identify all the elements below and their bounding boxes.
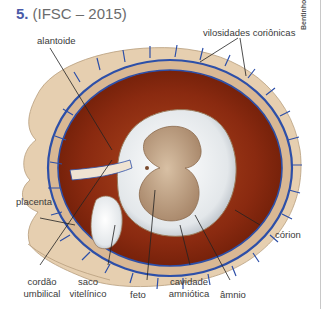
- label-saco-line1: saco: [68, 276, 108, 288]
- label-cavidade-line2: amniótica: [166, 288, 212, 300]
- label-cavidade-line1: cavidade: [166, 276, 212, 288]
- image-credit: Bentinho: [300, 0, 307, 30]
- label-vilosidades-corionicas: vilosidades coriônicas: [203, 27, 295, 39]
- label-corion: córion: [275, 229, 301, 241]
- label-amnio: âmnio: [220, 289, 246, 301]
- label-cavidade-amniotica: cavidade amniótica: [166, 276, 212, 300]
- label-saco-line2: vitelínico: [68, 288, 108, 300]
- page-edge-divider: [320, 0, 321, 309]
- label-cordao-line2: umbilical: [22, 288, 62, 300]
- label-alantoide: alantoide: [37, 35, 76, 47]
- label-feto: feto: [130, 289, 146, 301]
- label-placenta: placenta: [16, 196, 52, 208]
- label-saco-vitelinico: saco vitelínico: [68, 276, 108, 300]
- label-cordao-umbilical: cordão umbilical: [22, 276, 62, 300]
- label-cordao-line1: cordão: [22, 276, 62, 288]
